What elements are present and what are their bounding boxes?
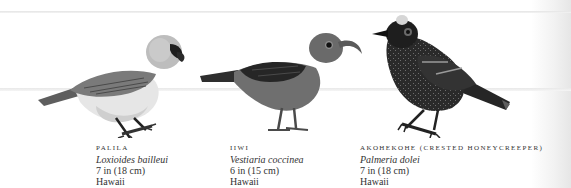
bird-size: 7 in (18 cm) [360,165,543,176]
scientific-name: Loxioides bailleui [96,154,168,165]
scientific-name: Palmeria dolei [360,154,543,165]
bird-size: 7 in (18 cm) [96,165,168,176]
akohekohe-bird-icon [372,12,514,138]
common-name: Akohekohe (crested honeycreeper) [360,143,543,154]
common-name: Palila [96,143,168,154]
bird-location: Hawaii [360,176,543,187]
iiwi-bird-icon [198,30,362,136]
caption-palila: Palila Loxioides bailleui 7 in (18 cm) H… [96,143,168,187]
palila-bird-icon [34,30,189,138]
common-name: Iiwi [230,143,304,154]
caption-iiwi: Iiwi Vestiaria coccinea 6 in (15 cm) Haw… [230,143,304,187]
scientific-name: Vestiaria coccinea [230,154,304,165]
bird-location: Hawaii [96,176,168,187]
bird-size: 6 in (15 cm) [230,165,304,176]
bird-location: Hawaii [230,176,304,187]
book-page: Palila Loxioides bailleui 7 in (18 cm) H… [0,0,571,188]
caption-akohekohe: Akohekohe (crested honeycreeper) Palmeri… [360,143,543,187]
